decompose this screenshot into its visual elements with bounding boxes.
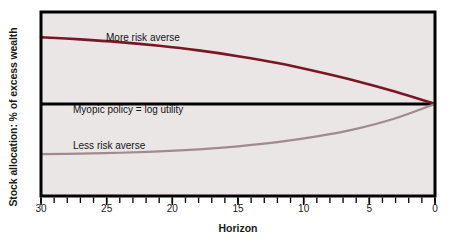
x-tick-label: 0: [423, 203, 447, 214]
x-axis-label: Horizon: [41, 222, 435, 234]
annotation-more-risk-averse: More risk averse: [106, 32, 180, 43]
annotation-less-risk-averse: Less risk averse: [73, 140, 145, 151]
x-tick-label: 30: [29, 203, 53, 214]
x-tick-label: 20: [160, 203, 184, 214]
x-tick-label: 10: [292, 203, 316, 214]
x-tick-label: 15: [226, 203, 250, 214]
x-tick-label: 5: [357, 203, 381, 214]
chart-figure: Stock allocation: % of excess wealth Mor…: [0, 0, 456, 242]
annotation-myopic-policy: Myopic policy = log utility: [73, 104, 183, 115]
x-tick-label: 25: [95, 203, 119, 214]
